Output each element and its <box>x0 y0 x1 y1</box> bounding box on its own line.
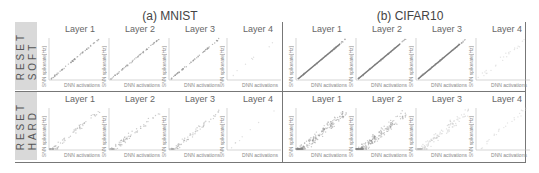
layer-title: Layer 4 <box>482 94 532 104</box>
scatter-plot <box>410 106 472 154</box>
scatter-panel: Layer 4SNN spikerate[Hz]DNN activations <box>221 94 281 160</box>
layer-title: Layer 1 <box>302 24 352 34</box>
scatter-panel: Layer 1SNN spikerate[Hz]DNN activations <box>43 94 103 160</box>
x-axis-label: DNN activations <box>484 82 534 88</box>
layer-title: Layer 2 <box>362 24 412 34</box>
x-axis-label: DNN activations <box>117 82 167 88</box>
y-axis-label: SNN spikerate[Hz] <box>288 46 294 87</box>
bottom-border <box>15 162 526 163</box>
scatter-plot <box>290 36 352 84</box>
scatter-panel: Layer 3SNN spikerate[Hz]DNN activations <box>410 24 470 90</box>
x-axis-label: DNN activations <box>484 152 534 158</box>
x-axis-label: DNN activations <box>235 152 285 158</box>
scatter-panel: Layer 3SNN spikerate[Hz]DNN activations <box>163 24 223 90</box>
y-axis-label: SNN spikerate[Hz] <box>468 116 474 157</box>
row-label-hard: HARD <box>27 102 38 150</box>
y-axis-label: SNN spikerate[Hz] <box>348 116 354 157</box>
x-axis-label: DNN activations <box>235 82 285 88</box>
y-axis-label: SNN spikerate[Hz] <box>408 116 414 157</box>
scatter-panel: Layer 1SNN spikerate[Hz]DNN activations <box>290 94 350 160</box>
y-axis-label: SNN spikerate[Hz] <box>101 46 107 87</box>
y-axis-label: SNN spikerate[Hz] <box>348 46 354 87</box>
scatter-plot <box>103 36 165 84</box>
scatter-plot <box>221 106 283 154</box>
y-axis-label: SNN spikerate[Hz] <box>288 116 294 157</box>
column-title-mnist: (a) MNIST <box>110 9 230 23</box>
y-axis-label: SNN spikerate[Hz] <box>161 116 167 157</box>
scatter-plot <box>410 36 472 84</box>
layer-title: Layer 3 <box>422 24 472 34</box>
scatter-panel: Layer 4SNN spikerate[Hz]DNN activations <box>221 24 281 90</box>
layer-title: Layer 1 <box>55 24 105 34</box>
x-axis-label: DNN activations <box>364 82 414 88</box>
y-axis-label: SNN spikerate[Hz] <box>219 116 225 157</box>
scatter-panel: Layer 4SNN spikerate[Hz]DNN activations <box>470 24 530 90</box>
x-axis-label: DNN activations <box>117 152 167 158</box>
scatter-plot <box>43 106 105 154</box>
row-divider <box>15 91 526 92</box>
scatter-plot <box>470 36 532 84</box>
scatter-plot <box>350 106 412 154</box>
scatter-plot <box>290 106 352 154</box>
layer-title: Layer 3 <box>175 94 225 104</box>
x-axis-label: DNN activations <box>57 152 107 158</box>
row-label-soft: SOFT <box>27 32 38 80</box>
layer-title: Layer 1 <box>55 94 105 104</box>
scatter-panel: Layer 2SNN spikerate[Hz]DNN activations <box>103 94 163 160</box>
x-axis-label: DNN activations <box>364 152 414 158</box>
row-label-hard-reset: HARD RESET <box>15 92 37 160</box>
scatter-plot <box>221 36 283 84</box>
x-axis-label: DNN activations <box>304 82 354 88</box>
scatter-panel: Layer 4SNN spikerate[Hz]DNN activations <box>470 94 530 160</box>
row-label-reset: RESET <box>15 32 26 80</box>
scatter-panel: Layer 2SNN spikerate[Hz]DNN activations <box>350 24 410 90</box>
scatter-plot <box>163 106 225 154</box>
scatter-panel: Layer 2SNN spikerate[Hz]DNN activations <box>350 94 410 160</box>
scatter-plot <box>43 36 105 84</box>
y-axis-label: SNN spikerate[Hz] <box>101 116 107 157</box>
x-axis-label: DNN activations <box>424 82 474 88</box>
layer-title: Layer 4 <box>233 24 283 34</box>
scatter-plot <box>350 36 412 84</box>
scatter-plot <box>470 106 532 154</box>
row-label-reset: RESET <box>15 102 26 150</box>
layer-title: Layer 4 <box>482 24 532 34</box>
y-axis-label: SNN spikerate[Hz] <box>41 46 47 87</box>
scatter-panel: Layer 1SNN spikerate[Hz]DNN activations <box>290 24 350 90</box>
layer-title: Layer 4 <box>233 94 283 104</box>
x-axis-label: DNN activations <box>57 82 107 88</box>
layer-title: Layer 1 <box>302 94 352 104</box>
layer-title: Layer 3 <box>422 94 472 104</box>
scatter-panel: Layer 3SNN spikerate[Hz]DNN activations <box>410 94 470 160</box>
layer-title: Layer 2 <box>115 94 165 104</box>
x-axis-label: DNN activations <box>424 152 474 158</box>
scatter-plot <box>163 36 225 84</box>
layer-title: Layer 2 <box>115 24 165 34</box>
scatter-panel: Layer 1SNN spikerate[Hz]DNN activations <box>43 24 103 90</box>
x-axis-label: DNN activations <box>304 152 354 158</box>
row-label-soft-reset: SOFT RESET <box>15 22 37 90</box>
y-axis-label: SNN spikerate[Hz] <box>161 46 167 87</box>
scatter-panel: Layer 3SNN spikerate[Hz]DNN activations <box>163 94 223 160</box>
layer-title: Layer 2 <box>362 94 412 104</box>
y-axis-label: SNN spikerate[Hz] <box>41 116 47 157</box>
column-title-cifar10: (b) CIFAR10 <box>350 9 470 23</box>
y-axis-label: SNN spikerate[Hz] <box>219 46 225 87</box>
layer-title: Layer 3 <box>175 24 225 34</box>
scatter-panel: Layer 2SNN spikerate[Hz]DNN activations <box>103 24 163 90</box>
y-axis-label: SNN spikerate[Hz] <box>468 46 474 87</box>
y-axis-label: SNN spikerate[Hz] <box>408 46 414 87</box>
scatter-plot <box>103 106 165 154</box>
